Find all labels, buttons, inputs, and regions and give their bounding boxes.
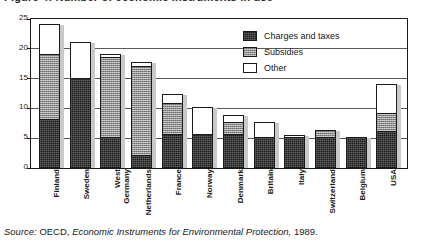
bar-segment-other: [70, 42, 91, 79]
legend-item-other: Other: [243, 61, 393, 75]
y-axis-tick-mark: [27, 168, 31, 169]
bar-segment-other: [39, 24, 60, 55]
y-axis-tick-mark: [27, 78, 31, 79]
bar-finland[interactable]: [39, 25, 60, 168]
y-axis-tick-label: 10: [2, 103, 28, 111]
bar-segment-charges-and-taxes: [100, 137, 121, 168]
source-title: Economic Instruments for Environmental P…: [72, 226, 291, 237]
bar-segment-charges-and-taxes: [254, 137, 275, 168]
bar-segment-other: [162, 94, 183, 104]
bar-shadow: [213, 108, 217, 168]
figure-title-strip: Figure 4: Number of economic instruments…: [0, 0, 427, 7]
y-axis-tick-label: 0: [2, 163, 28, 171]
source-org: OECD,: [39, 226, 69, 237]
bar-shadow: [275, 123, 279, 168]
y-axis-tick-mark: [27, 108, 31, 109]
source-label: Source:: [4, 226, 37, 237]
x-axis-label-norway: Norway: [205, 169, 214, 217]
bar-denmark[interactable]: [223, 116, 244, 168]
bar-segment-subsidies: [315, 130, 336, 138]
x-axis-label-denmark: Denmark: [236, 169, 245, 217]
bar-segment-charges-and-taxes: [162, 134, 183, 168]
x-axis-label-usa: USA: [389, 169, 398, 217]
y-axis-tick-label: 20: [2, 44, 28, 52]
y-axis-tick-label: 25: [2, 14, 28, 22]
y-axis-tick-mark: [27, 19, 31, 20]
bar-segment-charges-and-taxes: [315, 137, 336, 168]
chart-legend: Charges and taxes Subsidies Other: [243, 29, 393, 77]
x-axis-label-britain: Britain: [266, 169, 275, 217]
bar-shadow: [367, 138, 371, 168]
page-title: Figure 4: Number of economic instruments…: [4, 0, 273, 3]
legend-item-charges-and-taxes: Charges and taxes: [243, 29, 393, 43]
x-axis-label-netherlands: Netherlands: [144, 169, 153, 217]
legend-item-label: Charges and taxes: [264, 31, 340, 41]
source-caption: Source: OECD, Economic Instruments for E…: [4, 226, 318, 237]
bar-segment-other: [192, 107, 213, 135]
bar-segment-other: [284, 135, 305, 138]
bar-segment-other: [376, 84, 397, 115]
bar-segment-subsidies: [39, 54, 60, 121]
x-axis-label-sweden: Sweden: [82, 169, 91, 217]
gray-hatched-swatch-icon: [243, 47, 257, 57]
bar-netherlands[interactable]: [131, 63, 152, 168]
bar-segment-subsidies: [223, 122, 244, 135]
bar-segment-charges-and-taxes: [284, 137, 305, 168]
bar-segment-charges-and-taxes: [192, 134, 213, 168]
legend-item-label: Other: [264, 63, 287, 73]
y-axis-tick-label: 5: [2, 133, 28, 141]
bar-segment-charges-and-taxes: [346, 137, 367, 168]
white-swatch-icon: [243, 63, 257, 73]
bar-segment-other: [100, 54, 121, 58]
bar-shadow: [91, 43, 95, 168]
legend-item-subsidies: Subsidies: [243, 45, 393, 59]
bar-segment-other: [254, 122, 275, 138]
y-axis-tick-mark: [27, 48, 31, 49]
x-axis-label-belgium: Belgium: [358, 169, 367, 217]
bar-segment-subsidies: [100, 57, 121, 138]
x-axis-label-italy: Italy: [297, 169, 306, 217]
bar-segment-subsidies: [162, 103, 183, 135]
black-solid-swatch-icon: [243, 31, 257, 41]
bar-west-germany[interactable]: [100, 55, 121, 168]
y-axis-tick-label: 15: [2, 74, 28, 82]
y-axis: 0510152025: [0, 0, 28, 180]
bar-segment-other: [223, 115, 244, 124]
bar-shadow: [244, 116, 248, 168]
bar-shadow: [397, 85, 401, 168]
x-axis-label-france: France: [174, 169, 183, 217]
bar-segment-charges-and-taxes: [131, 155, 152, 168]
bar-britain[interactable]: [254, 123, 275, 168]
x-axis-label-west-germany: West Germany: [113, 169, 131, 217]
x-axis-label-finland: Finland: [52, 169, 61, 217]
x-axis-labels: FinlandSwedenWest GermanyNetherlandsFran…: [30, 171, 408, 219]
bar-usa[interactable]: [376, 85, 397, 168]
legend-item-label: Subsidies: [264, 47, 303, 57]
source-year: 1989.: [294, 226, 318, 237]
bar-segment-subsidies: [376, 113, 397, 132]
bar-segment-charges-and-taxes: [70, 78, 91, 168]
bar-switzerland[interactable]: [315, 131, 336, 168]
y-axis-tick-mark: [27, 138, 31, 139]
bar-norway[interactable]: [192, 108, 213, 168]
bar-shadow: [152, 63, 156, 168]
bar-shadow: [305, 136, 309, 168]
bar-shadow: [121, 55, 125, 168]
bar-shadow: [183, 95, 187, 168]
bar-segment-charges-and-taxes: [376, 131, 397, 168]
bar-segment-subsidies: [131, 66, 152, 156]
bar-shadow: [60, 25, 64, 168]
bar-sweden[interactable]: [70, 43, 91, 168]
bar-france[interactable]: [162, 95, 183, 168]
x-axis-label-switzerland: Switzerland: [328, 169, 337, 217]
bar-shadow: [336, 131, 340, 168]
bar-segment-charges-and-taxes: [39, 119, 60, 168]
bar-segment-charges-and-taxes: [223, 134, 244, 168]
bar-belgium[interactable]: [346, 138, 367, 168]
bar-italy[interactable]: [284, 136, 305, 168]
bar-segment-other: [131, 62, 152, 67]
